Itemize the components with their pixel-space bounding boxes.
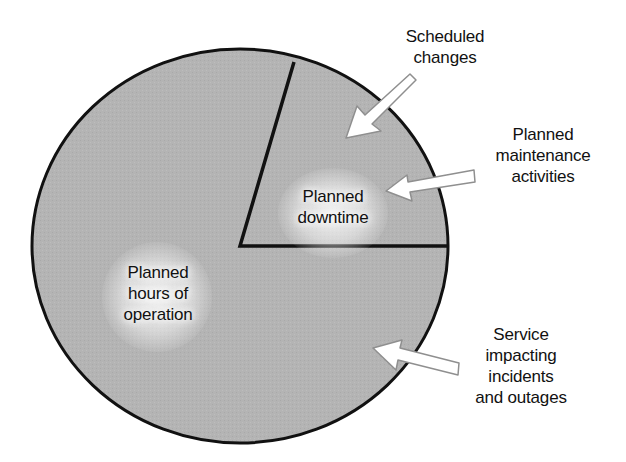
callout-planned-maintenance-activities: Planned maintenance activities (478, 124, 608, 187)
callout-service-impacting-incidents: Service impacting incidents and outages (456, 324, 586, 408)
availability-pie-diagram: Planned hours of operation Planned downt… (0, 0, 626, 462)
slice-label-planned-downtime: Planned downtime (283, 186, 383, 228)
callout-scheduled-changes: Scheduled changes (390, 26, 500, 68)
slice-label-planned-hours-of-operation: Planned hours of operation (98, 262, 218, 325)
